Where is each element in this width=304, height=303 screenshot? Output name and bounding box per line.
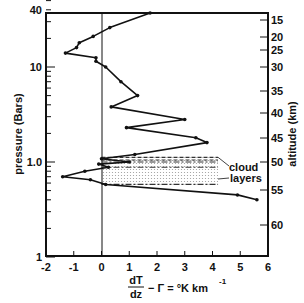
data-point [255,198,259,202]
data-point [83,169,87,173]
chart-canvas: -2-10123456 40101.01 1520253035404550556… [0,0,304,303]
y2-tick-label: 35 [271,85,283,97]
data-point [104,65,108,69]
y2-axis-title: altitude (km) [286,101,298,167]
x-tick-label: 5 [237,261,243,273]
data-point [94,59,98,63]
y-tick-label: 10 [30,61,42,73]
y-tick-label: 1 [36,251,42,263]
annotation-layers: layers [230,172,262,184]
data-point [64,51,68,55]
x-tick-label: 1 [126,261,132,273]
x-tick-label: 4 [209,261,216,273]
xlabel-numerator: dT [129,274,143,286]
y-tick-label: 1.0 [27,156,42,168]
data-point [75,46,79,50]
annotations: cloudlayers [218,157,262,184]
data-point [194,136,198,140]
y-axis-title: pressure (Bars) [12,93,24,175]
data-point [61,175,65,179]
x-axis-title: dT dz − Γ = °K km -1 [128,274,227,300]
y2-tick-label: 60 [271,219,283,231]
x-tick-label: 0 [98,261,104,273]
xlabel-denominator: dz [130,288,143,300]
x-axis-ticks: -2-10123456 [41,251,271,273]
xlabel-superscript: -1 [219,277,227,286]
y2-axis-ticks: 15202530354045505560 [260,14,283,231]
plot-frame [46,13,268,256]
data-point [109,105,113,109]
data-point [97,162,101,166]
x-tick-label: -2 [41,261,51,273]
y2-tick-label: 25 [271,44,283,56]
data-point [108,26,112,30]
data-point [104,183,108,187]
data-point [78,41,82,45]
data-point [136,94,140,98]
y2-tick-label: 50 [271,156,283,168]
y2-tick-label: 15 [271,14,283,26]
y2-tick-label: 55 [271,184,283,196]
data-point [119,80,123,84]
y2-tick-label: 30 [271,61,283,73]
data-point [107,165,111,169]
data-point [89,178,93,182]
x-tick-label: 3 [182,261,188,273]
y-tick-label: 40 [30,4,42,16]
data-point [236,193,240,197]
data-point [183,118,187,122]
y2-tick-label: 40 [271,107,283,119]
data-point [91,35,95,39]
data-point [127,160,131,164]
data-point [205,141,209,145]
y2-tick-label: 45 [271,132,283,144]
y-axis-ticks: 40101.01 [27,1,55,263]
x-tick-label: 6 [265,261,271,273]
data-point [125,126,129,130]
x-tick-label: 2 [154,261,160,273]
data-point [94,56,98,60]
data-point [148,11,152,15]
y2-tick-label: 20 [271,31,283,43]
data-point [133,153,137,157]
xlabel-rest: − Γ = °K km [148,282,208,294]
x-tick-label: -1 [69,261,79,273]
data-point [100,157,104,161]
